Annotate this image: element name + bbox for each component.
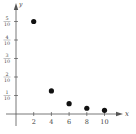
y-tick-denominator: 10 bbox=[4, 59, 10, 64]
x-tick-label: 8 bbox=[85, 118, 89, 126]
y-tick-numerator: 3 bbox=[5, 53, 8, 58]
y-tick-denominator: 10 bbox=[4, 22, 10, 27]
y-tick-numerator: 4 bbox=[5, 35, 8, 40]
y-tick-denominator: 10 bbox=[4, 78, 10, 83]
data-point bbox=[102, 108, 107, 113]
y-tick-numerator: 2 bbox=[5, 72, 8, 77]
y-axis-label: y bbox=[18, 0, 23, 8]
y-tick-numerator: 1 bbox=[5, 90, 8, 95]
y-tick-denominator: 10 bbox=[4, 96, 10, 101]
x-tick-label: 10 bbox=[100, 118, 108, 126]
y-tick-denominator: 10 bbox=[4, 41, 10, 46]
scatter-plot: xy246810110210310410510 bbox=[0, 0, 136, 134]
data-points bbox=[31, 19, 107, 113]
y-axis-arrow-icon bbox=[14, 3, 18, 10]
data-point bbox=[67, 101, 72, 106]
x-tick-label: 4 bbox=[49, 118, 53, 126]
x-tick-label: 2 bbox=[32, 118, 36, 126]
data-point bbox=[84, 106, 89, 111]
x-axis-arrow-icon bbox=[116, 112, 123, 116]
y-tick-numerator: 5 bbox=[5, 16, 8, 21]
x-axis-label: x bbox=[125, 110, 129, 118]
x-tick-label: 6 bbox=[67, 118, 71, 126]
data-point bbox=[49, 88, 54, 93]
axes: xy246810110210310410510 bbox=[4, 0, 130, 126]
data-point bbox=[31, 19, 36, 24]
